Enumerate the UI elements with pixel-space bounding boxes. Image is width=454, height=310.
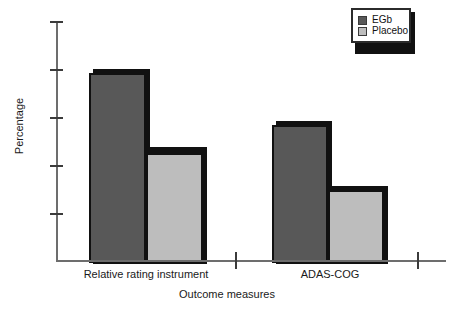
legend-label-placebo: Placebo: [372, 26, 408, 36]
x-category-label-adas-cog: ADAS-COG: [250, 268, 410, 280]
x-category-label-relative-rating-instrument: Relative rating instrument: [56, 268, 236, 280]
bar-chart: EGb Placebo 50 40 30 20 10 0 Percentage …: [0, 0, 454, 310]
x-tick-1: [235, 252, 237, 269]
x-axis-line: [56, 260, 446, 262]
legend-item-placebo[interactable]: Placebo: [358, 26, 404, 36]
legend-swatch-placebo: [358, 27, 367, 36]
y-axis-title: Percentage: [13, 71, 25, 181]
y-tick-40: [50, 69, 63, 71]
bar-placebo-adas-cog[interactable]: [328, 190, 384, 263]
legend-swatch-egb: [358, 16, 367, 25]
y-tick-10: [50, 213, 63, 215]
bar-placebo-relative-rating-instrument[interactable]: [146, 153, 203, 263]
legend-label-egb: EGb: [372, 15, 392, 25]
x-axis-title: Outcome measures: [0, 288, 454, 300]
y-tick-50: [50, 21, 63, 23]
legend-item-egb[interactable]: EGb: [358, 15, 404, 25]
bar-egb-adas-cog[interactable]: [272, 125, 328, 263]
x-tick-2: [417, 252, 419, 269]
y-tick-30: [50, 117, 63, 119]
y-tick-20: [50, 165, 63, 167]
bar-egb-relative-rating-instrument[interactable]: [89, 73, 146, 263]
chart-legend: EGb Placebo: [351, 8, 411, 43]
y-axis-line: [56, 22, 58, 262]
